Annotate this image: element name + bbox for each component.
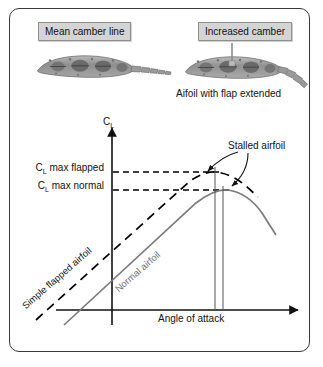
label-cl-max-flapped-rest: max flapped [47,162,104,173]
x-axis-label: Angle of attack [158,313,224,324]
y-axis-label-sub: L [110,122,114,129]
curve-normal-airfoil [64,190,276,325]
label-cl-max-normal-base: C [38,180,45,191]
curve-simple-flapped-airfoil [36,172,258,320]
label-cl-max-normal-rest: max normal [49,180,104,191]
aerodynamics-figure: Mean camber line Increased camber Aifoil… [0,0,323,367]
y-axis-label: CL [103,116,114,129]
stall-arrow-flapped [208,152,238,171]
label-cl-max-normal: CL max normal [38,180,104,193]
label-cl-max-flapped-base: C [36,162,43,173]
label-cl-max-flapped: CL max flapped [36,162,104,175]
label-stalled-airfoil: Stalled airfoil [228,140,285,151]
